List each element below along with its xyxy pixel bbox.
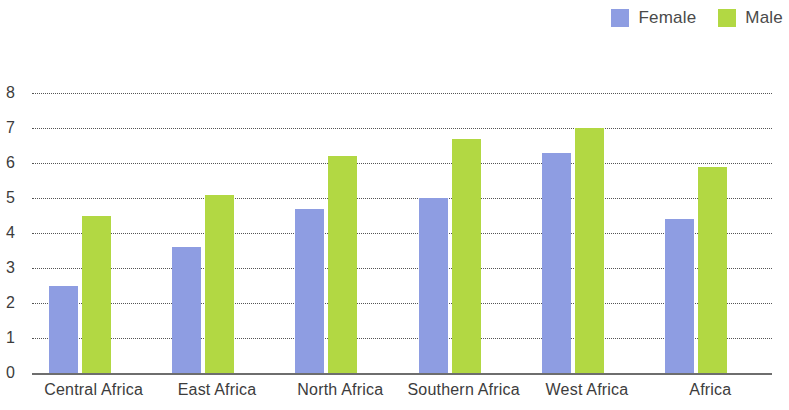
legend-swatch-female-icon xyxy=(611,9,629,27)
legend-label-female: Female xyxy=(638,8,696,28)
y-axis-tick-label: 3 xyxy=(6,259,30,277)
gridline xyxy=(32,373,772,375)
legend-swatch-male-icon xyxy=(718,9,736,27)
y-axis-tick-label: 1 xyxy=(6,329,30,347)
plot-area xyxy=(32,93,772,373)
y-axis-tick-label: 2 xyxy=(6,294,30,312)
bar-male-west-africa[interactable] xyxy=(575,128,604,373)
y-axis-tick-label: 7 xyxy=(6,119,30,137)
legend-item-male[interactable]: Male xyxy=(718,8,783,28)
y-axis-tick-label: 5 xyxy=(6,189,30,207)
y-axis-tick-label: 6 xyxy=(6,154,30,172)
chart-legend: Female Male xyxy=(611,6,783,30)
bar-male-north-africa[interactable] xyxy=(328,156,357,373)
x-axis-label: North Africa xyxy=(297,381,383,399)
y-axis-tick-label: 4 xyxy=(6,224,30,242)
y-axis-tick-label: 8 xyxy=(6,84,30,102)
legend-label-male: Male xyxy=(745,8,783,28)
bar-male-africa[interactable] xyxy=(698,167,727,374)
bar-female-east-africa[interactable] xyxy=(172,247,201,373)
bar-female-central-africa[interactable] xyxy=(49,286,78,374)
x-axis-label: Central Africa xyxy=(44,381,143,399)
bar-male-central-africa[interactable] xyxy=(82,216,111,374)
bar-female-west-africa[interactable] xyxy=(542,153,571,374)
y-axis-tick-label: 0 xyxy=(6,364,30,382)
bar-female-africa[interactable] xyxy=(665,219,694,373)
bar-female-north-africa[interactable] xyxy=(295,209,324,374)
x-axis-label: East Africa xyxy=(178,381,257,399)
bar-female-southern-africa[interactable] xyxy=(419,198,448,373)
x-axis-labels: Central AfricaEast AfricaNorth AfricaSou… xyxy=(0,381,789,409)
x-axis-label: Africa xyxy=(689,381,731,399)
x-axis-label: West Africa xyxy=(546,381,629,399)
bar-chart: Female Male 012345678 Central AfricaEast… xyxy=(0,0,789,410)
bar-male-southern-africa[interactable] xyxy=(452,139,481,374)
legend-item-female[interactable]: Female xyxy=(611,8,696,28)
bars-layer xyxy=(32,93,772,373)
x-axis-label: Southern Africa xyxy=(407,381,519,399)
bar-male-east-africa[interactable] xyxy=(205,195,234,374)
